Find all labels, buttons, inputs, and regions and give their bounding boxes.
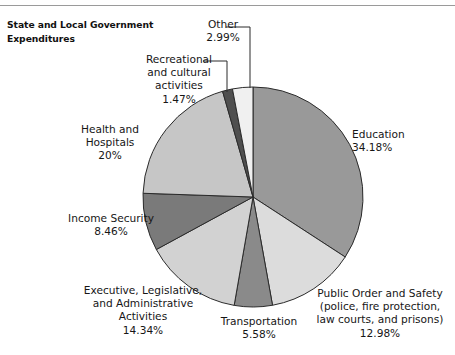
slice-label-other: Other 2.99% <box>181 18 265 44</box>
slice-label-recreational-and-cultural-activities: Recreational and cultural activities 1.4… <box>135 53 223 106</box>
slice-label-transportation: Transportation 5.58% <box>206 315 312 341</box>
slice-label-health-and-hospitals: Health and Hospitals 20% <box>58 123 162 163</box>
slice-label-executive-legislative-administrative: Executive, Legislative, and Administrati… <box>78 284 208 337</box>
pie-chart-figure: State and Local Government Expenditures … <box>0 0 455 355</box>
slice-label-income-security: Income Security 8.46% <box>56 212 166 238</box>
pie-slices-group <box>143 87 363 307</box>
slice-label-education: Education 34.18% <box>352 128 448 154</box>
slice-label-public-order-and-safety: Public Order and Safety (police, fire pr… <box>306 287 454 340</box>
